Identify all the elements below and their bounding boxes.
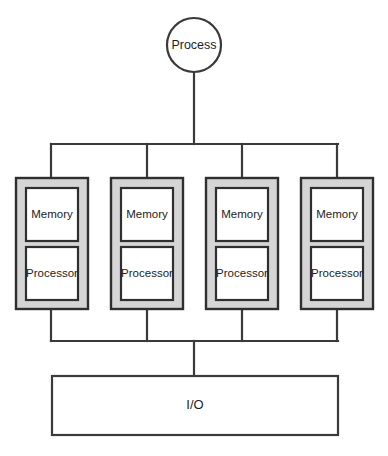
module-1-memory-label: Memory — [31, 208, 73, 220]
io-node-label: I/O — [186, 397, 203, 412]
module-node-3: Memory Processor — [206, 178, 278, 309]
module-4-memory-label: Memory — [316, 208, 358, 220]
module-2-processor-label: Processor — [121, 267, 173, 279]
module-2-memory-label: Memory — [126, 208, 168, 220]
module-3-processor-label: Processor — [216, 267, 268, 279]
module-4-processor-label: Processor — [311, 267, 363, 279]
module-3-memory-label: Memory — [221, 208, 263, 220]
diagram-svg: Process Memory Processor Memory Processo… — [0, 0, 388, 456]
module-node-2: Memory Processor — [111, 178, 183, 309]
module-node-4: Memory Processor — [301, 178, 373, 309]
module-1-processor-label: Processor — [26, 267, 78, 279]
block-diagram-canvas: Process Memory Processor Memory Processo… — [0, 0, 388, 456]
process-node-label: Process — [171, 38, 216, 52]
module-node-1: Memory Processor — [16, 178, 88, 309]
